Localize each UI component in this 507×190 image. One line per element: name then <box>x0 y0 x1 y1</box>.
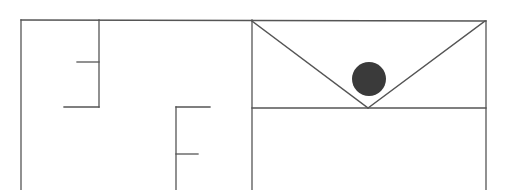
wall-outer-top <box>21 20 486 21</box>
agent-position-marker <box>352 62 386 96</box>
wall-diagonal-right <box>368 21 485 108</box>
floor-plan-diagram <box>0 0 507 190</box>
wall-diagonal-left <box>252 21 368 108</box>
walls-group <box>21 20 486 190</box>
markers-group <box>352 62 386 96</box>
